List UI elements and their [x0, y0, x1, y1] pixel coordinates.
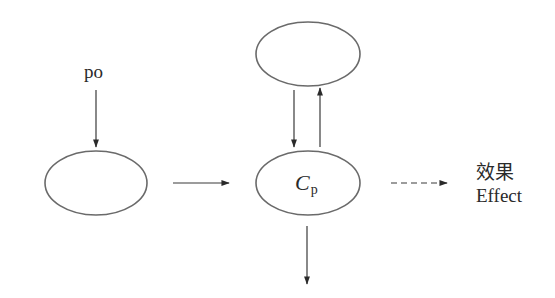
effect-label-english: Effect	[476, 184, 522, 207]
effect-label: 效果 Effect	[476, 161, 522, 207]
cp-node-label: Cp	[295, 172, 318, 194]
cp-label-main: C	[295, 170, 310, 195]
po-label: po	[84, 62, 103, 81]
upper-node-ellipse	[256, 22, 360, 86]
cp-label-subscript: p	[311, 182, 318, 197]
input-node-ellipse	[45, 151, 147, 215]
flow-diagram	[0, 0, 555, 298]
effect-label-chinese: 效果	[476, 161, 522, 184]
